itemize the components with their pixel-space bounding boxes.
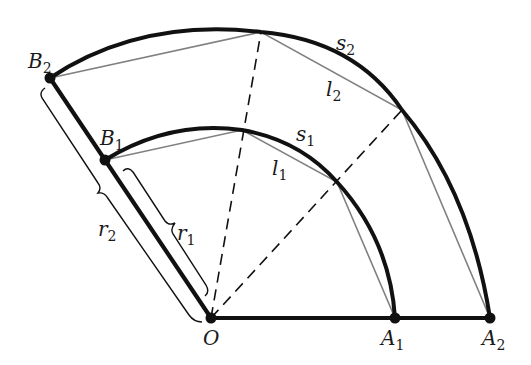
dashed-radius-top bbox=[211, 32, 261, 318]
label-A1: A1 bbox=[379, 326, 404, 353]
label-l2: l2 bbox=[326, 77, 341, 104]
label-l1: l1 bbox=[272, 156, 287, 183]
label-O: O bbox=[203, 326, 219, 350]
label-r2: r2 bbox=[98, 217, 116, 244]
label-B1: B1 bbox=[99, 126, 124, 153]
point-B1 bbox=[100, 155, 111, 166]
label-r1: r1 bbox=[177, 221, 195, 248]
brace-r2 bbox=[41, 88, 202, 322]
sector-diagram: B2 B1 O A1 A2 s2 l2 s1 l1 r1 r2 bbox=[0, 0, 531, 365]
point-A2 bbox=[485, 313, 496, 324]
points bbox=[45, 73, 496, 324]
label-s1: s1 bbox=[296, 122, 315, 149]
edge-O-B2 bbox=[50, 78, 211, 318]
point-A1 bbox=[390, 313, 401, 324]
sector-edges bbox=[50, 78, 490, 318]
braces bbox=[41, 88, 208, 322]
label-B2: B2 bbox=[27, 49, 52, 76]
point-O bbox=[206, 313, 217, 324]
label-s2: s2 bbox=[336, 31, 355, 58]
label-A2: A2 bbox=[480, 326, 505, 353]
